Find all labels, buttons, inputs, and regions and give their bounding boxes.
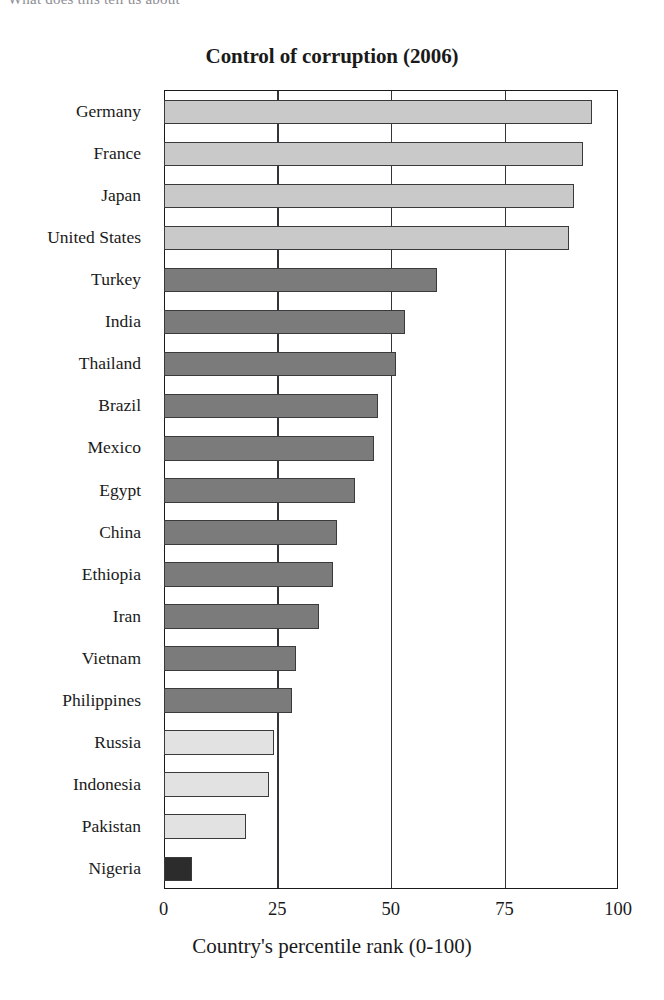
bar-row [165, 385, 618, 427]
chart-title: Control of corruption (2006) [0, 44, 664, 69]
y-axis-label-iran: Iran [0, 606, 152, 626]
bar-row [165, 259, 618, 301]
x-axis-tick-100: 100 [604, 899, 632, 920]
y-axis-label-egypt: Egypt [0, 480, 152, 500]
bar-row [165, 133, 618, 175]
y-axis-label-philippines: Philippines [0, 690, 152, 710]
bar-chart-figure: Control of corruption (2006) GermanyFran… [0, 0, 664, 1000]
y-axis-label-germany: Germany [0, 101, 152, 121]
bar-vietnam [164, 646, 297, 671]
y-axis-label-ethiopia: Ethiopia [0, 564, 152, 584]
y-axis-label-india: India [0, 311, 152, 331]
y-axis-label-mexico: Mexico [0, 437, 152, 457]
bar-united-states [164, 226, 569, 251]
y-axis-label-brazil: Brazil [0, 395, 152, 415]
x-axis-tick-50: 50 [382, 899, 401, 920]
x-axis-tick-labels: 0255075100 [0, 899, 664, 925]
bar-india [164, 310, 406, 335]
y-axis-label-vietnam: Vietnam [0, 648, 152, 668]
bar-row [165, 806, 618, 848]
y-axis-label-pakistan: Pakistan [0, 816, 152, 836]
bar-indonesia [164, 772, 269, 797]
bar-pakistan [164, 814, 247, 839]
plot-area [164, 90, 619, 889]
bar-turkey [164, 268, 438, 293]
bar-russia [164, 730, 274, 755]
y-axis-label-nigeria: Nigeria [0, 858, 152, 878]
y-axis-label-china: China [0, 522, 152, 542]
bar-japan [164, 184, 574, 209]
bar-row [165, 301, 618, 343]
bar-row [165, 175, 618, 217]
bar-nigeria [164, 857, 192, 882]
bars-container [165, 91, 618, 888]
x-axis-tick-0: 0 [159, 899, 168, 920]
y-axis-label-united-states: United States [0, 227, 152, 247]
x-axis-tick-75: 75 [495, 899, 514, 920]
y-axis-label-russia: Russia [0, 732, 152, 752]
bar-row [165, 469, 618, 511]
bar-france [164, 142, 583, 167]
y-axis-category-labels: GermanyFranceJapanUnited StatesTurkeyInd… [0, 90, 152, 889]
y-axis-label-thailand: Thailand [0, 353, 152, 373]
bar-row [165, 680, 618, 722]
bar-row [165, 512, 618, 554]
bar-germany [164, 100, 592, 125]
bar-row [165, 596, 618, 638]
bar-row [165, 427, 618, 469]
bar-brazil [164, 394, 378, 419]
x-axis-tick-25: 25 [268, 899, 287, 920]
bar-egypt [164, 478, 356, 503]
bar-mexico [164, 436, 374, 461]
bar-row [165, 91, 618, 133]
bar-row [165, 554, 618, 596]
y-axis-label-turkey: Turkey [0, 269, 152, 289]
bar-row [165, 722, 618, 764]
bar-row [165, 848, 618, 890]
y-axis-label-france: France [0, 143, 152, 163]
bar-china [164, 520, 338, 545]
x-axis-title: Country's percentile rank (0-100) [0, 934, 664, 959]
bar-iran [164, 604, 319, 629]
bar-row [165, 217, 618, 259]
bar-philippines [164, 688, 292, 713]
y-axis-label-japan: Japan [0, 185, 152, 205]
bar-ethiopia [164, 562, 333, 587]
bar-row [165, 343, 618, 385]
y-axis-label-indonesia: Indonesia [0, 774, 152, 794]
bar-row [165, 764, 618, 806]
bar-thailand [164, 352, 397, 377]
bar-row [165, 638, 618, 680]
